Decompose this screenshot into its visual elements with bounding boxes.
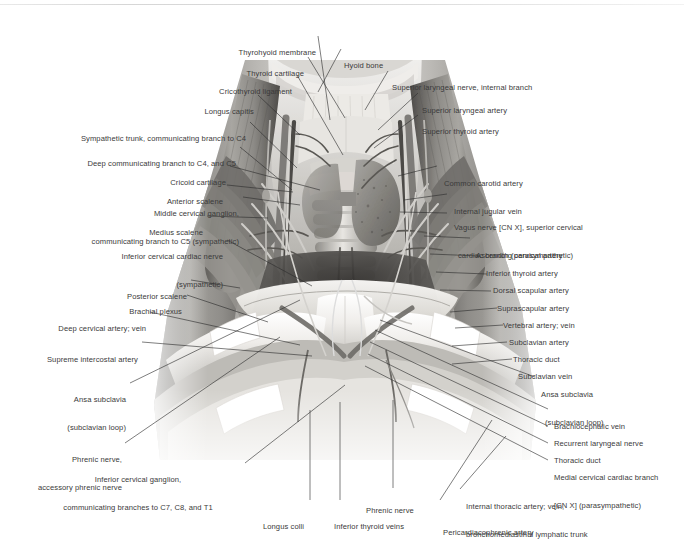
top-hairline-divider (0, 4, 684, 5)
anatomy-plate: Thyrohyoid membrane Thyroid cartilage Hy… (0, 0, 684, 544)
label-inferior-cervical-ganglion: Inferior cervical ganglion, communicatin… (32, 456, 244, 531)
label-longus-colli: Longus colli (220, 503, 304, 544)
label-internal-thoracic: Internal thoracic artery; vein, bronchom… (466, 483, 666, 544)
label-superior-thyroid-artery: Superior thyroid artery (422, 108, 578, 155)
